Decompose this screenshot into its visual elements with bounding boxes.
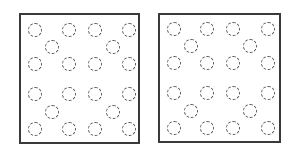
left-panel: [19, 13, 140, 144]
dashed-circle: [62, 57, 76, 71]
dashed-circle: [122, 87, 136, 101]
dashed-circle: [45, 40, 59, 54]
dashed-circle: [200, 86, 214, 100]
dashed-circle: [184, 39, 198, 53]
dashed-circle: [167, 121, 181, 135]
dashed-circle: [184, 104, 198, 118]
dashed-circle: [200, 121, 214, 135]
dashed-circle: [243, 39, 257, 53]
dashed-circle: [62, 122, 76, 136]
dashed-circle: [122, 122, 136, 136]
dashed-circle: [62, 87, 76, 101]
dashed-circle: [28, 57, 42, 71]
dashed-circle: [28, 23, 42, 37]
dashed-circle: [261, 86, 275, 100]
dashed-circle: [226, 121, 240, 135]
dashed-circle: [167, 56, 181, 70]
dashed-circle: [122, 57, 136, 71]
dashed-circle: [62, 23, 76, 37]
dashed-circle: [167, 22, 181, 36]
dashed-circle: [167, 86, 181, 100]
dashed-circle: [261, 121, 275, 135]
dashed-circle: [88, 122, 102, 136]
dashed-circle: [88, 23, 102, 37]
right-panel: [158, 13, 281, 143]
dashed-circle: [106, 105, 120, 119]
dashed-circle: [200, 22, 214, 36]
dashed-circle: [243, 104, 257, 118]
dashed-circle: [45, 105, 59, 119]
dashed-circle: [226, 22, 240, 36]
dashed-circle: [106, 40, 120, 54]
dashed-circle: [122, 23, 136, 37]
dashed-circle: [88, 87, 102, 101]
dashed-circle: [226, 56, 240, 70]
dashed-circle: [261, 56, 275, 70]
dashed-circle: [200, 56, 214, 70]
dashed-circle: [226, 86, 240, 100]
dashed-circle: [28, 122, 42, 136]
dashed-circle: [88, 57, 102, 71]
dashed-circle: [261, 22, 275, 36]
dashed-circle: [28, 87, 42, 101]
